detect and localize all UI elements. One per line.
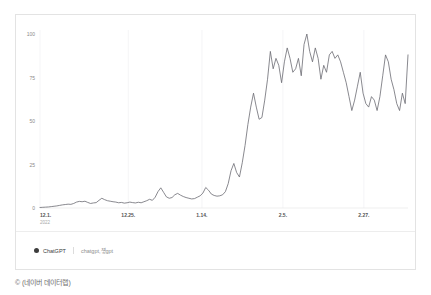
svg-text:75: 75 xyxy=(29,75,35,81)
legend-series-label: ChatGPT xyxy=(43,248,66,254)
svg-text:2.5.: 2.5. xyxy=(279,212,288,218)
plot-area: 0255075100 12.1.202212.25.1.14.2.5.2.27. xyxy=(16,15,415,227)
legend-color-dot xyxy=(34,248,39,253)
legend-keyword-label: chatgpt,첗gpt xyxy=(81,247,113,255)
svg-text:12.25.: 12.25. xyxy=(121,212,136,218)
svg-text:0: 0 xyxy=(32,205,35,211)
legend-divider xyxy=(73,247,74,254)
svg-text:25: 25 xyxy=(29,162,35,168)
chart-legend: ChatGPT chatgpt,첗gpt xyxy=(16,231,415,269)
series-line-chatgpt xyxy=(40,34,408,207)
svg-text:1.14.: 1.14. xyxy=(196,212,208,218)
svg-text:2.27.: 2.27. xyxy=(358,212,370,218)
svg-text:12.1.: 12.1. xyxy=(40,212,52,218)
svg-text:2022: 2022 xyxy=(40,220,51,225)
svg-text:100: 100 xyxy=(27,31,36,37)
copyright-credit: © (네이버 데이터랩) xyxy=(15,277,71,287)
chart-card: 0255075100 12.1.202212.25.1.14.2.5.2.27.… xyxy=(15,14,416,270)
x-axis-labels: 12.1.202212.25.1.14.2.5.2.27. xyxy=(40,212,370,225)
trend-line-chart: 0255075100 12.1.202212.25.1.14.2.5.2.27. xyxy=(16,15,415,227)
gridlines xyxy=(40,30,408,208)
legend-item-chatgpt[interactable]: ChatGPT xyxy=(34,248,66,254)
svg-text:50: 50 xyxy=(29,118,35,124)
y-axis-labels: 0255075100 xyxy=(27,31,36,211)
